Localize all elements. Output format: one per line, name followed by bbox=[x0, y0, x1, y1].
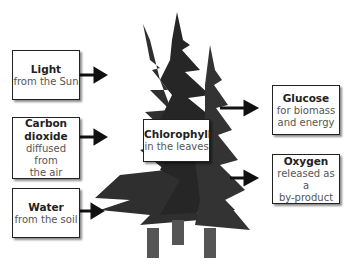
input-co2-box: Carbon dioxide diffused from the air bbox=[12, 117, 80, 179]
arrow-right-icon bbox=[92, 205, 102, 217]
arrow-right-icon bbox=[95, 69, 105, 81]
arrow-right-icon bbox=[245, 102, 256, 114]
input-subtitle: from the soil bbox=[13, 214, 79, 226]
input-title: Water bbox=[13, 201, 79, 214]
arrow-right-icon bbox=[95, 131, 105, 143]
input-title-line2: dioxide bbox=[13, 130, 79, 143]
input-title-line1: Carbon bbox=[13, 117, 79, 130]
output-oxygen-box: Oxygen released as a by-product bbox=[272, 154, 340, 204]
input-subtitle-line2: the air bbox=[13, 167, 79, 179]
input-water-box: Water from the soil bbox=[12, 188, 80, 238]
input-light-box: Light from the Sun bbox=[12, 50, 80, 100]
input-title: Light bbox=[13, 63, 79, 76]
output-title: Glucose bbox=[273, 92, 339, 105]
output-subtitle-line1: released as a bbox=[273, 168, 339, 192]
center-chlorophyll-box: Chlorophyll in the leaves bbox=[143, 119, 210, 162]
output-title: Oxygen bbox=[273, 155, 339, 168]
input-subtitle-line1: diffused from bbox=[13, 143, 79, 167]
output-subtitle-line2: and energy bbox=[273, 117, 339, 129]
center-title: Chlorophyll bbox=[144, 128, 209, 141]
output-subtitle-line2: by-product bbox=[273, 192, 339, 204]
center-subtitle: in the leaves bbox=[144, 141, 209, 153]
output-glucose-box: Glucose for biomass and energy bbox=[272, 85, 340, 135]
arrow-right-icon bbox=[245, 172, 256, 184]
input-subtitle: from the Sun bbox=[13, 76, 79, 88]
output-subtitle-line1: for biomass bbox=[273, 105, 339, 117]
